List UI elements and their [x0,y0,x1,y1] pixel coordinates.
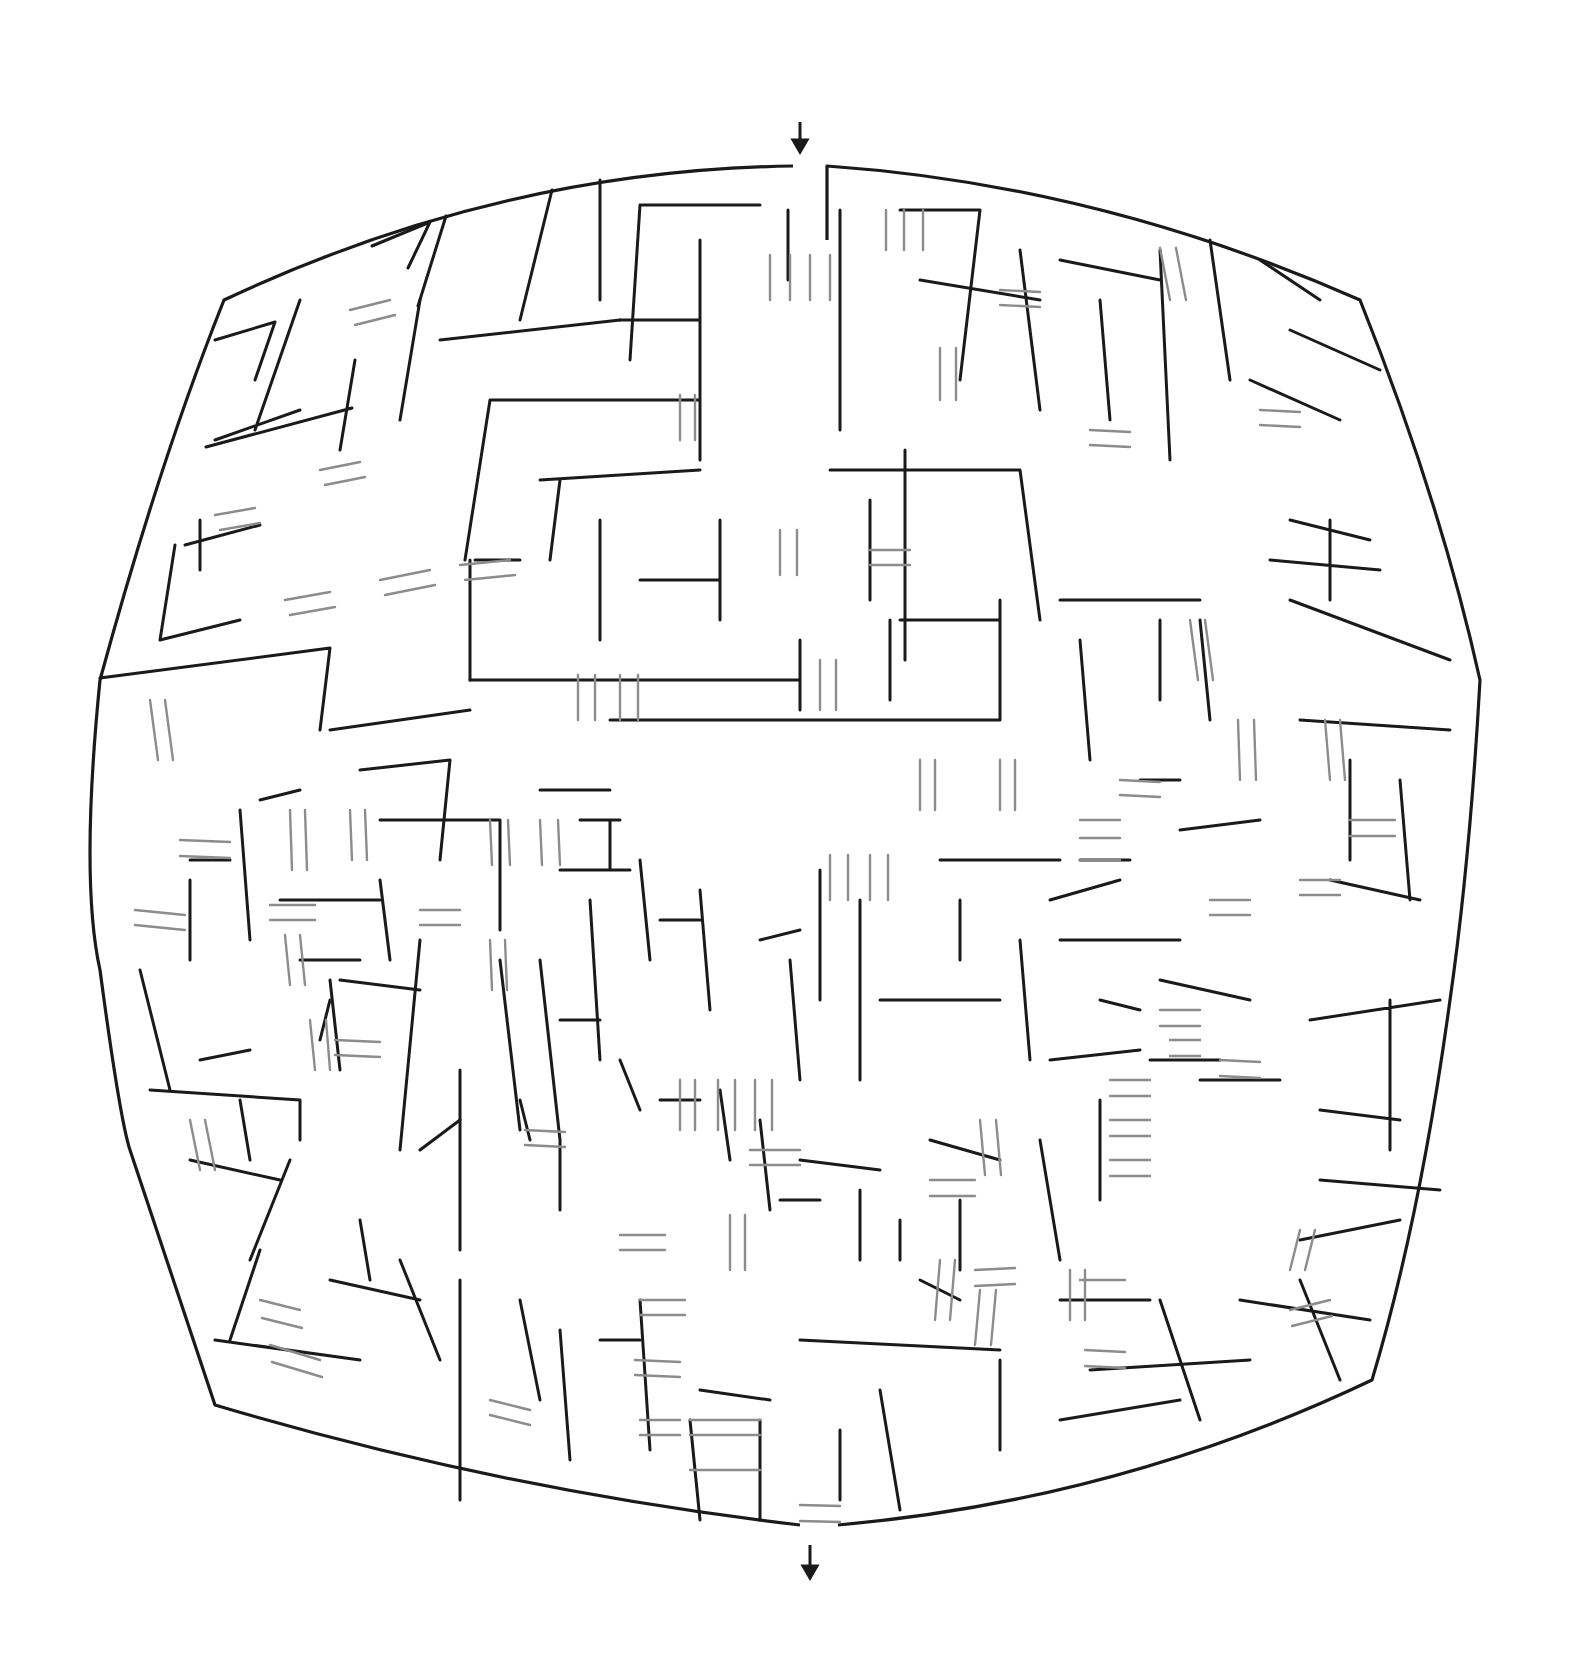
maze-bridge [950,1260,955,1320]
maze-wall [215,300,300,440]
maze-bridge [1120,795,1160,797]
maze-wall [140,970,300,1160]
maze-bridge [1220,1060,1260,1062]
maze-wall [460,960,560,1250]
maze-bridge [365,810,367,860]
maze-bridge [505,940,507,990]
maze-bridge [1085,1350,1125,1352]
maze-bridge [800,1505,840,1506]
maze-bridge [1090,445,1130,447]
maze-bridge [1340,720,1345,780]
maze-bridge [135,910,185,915]
maze-wall [590,860,710,1060]
maze-wall [600,180,788,360]
entrance-arrow-icon [793,122,807,152]
maze-outline [90,166,1480,1525]
maze-bridge [1085,1366,1125,1368]
maze-bridge [1260,425,1300,427]
maze-bridge [290,607,335,615]
maze-bridge [290,810,292,870]
maze-wall [460,1280,640,1500]
maze-wall [465,240,700,560]
maze-bridge [350,810,352,860]
maze-wall [190,1050,360,1360]
maze-bridge [1254,720,1256,780]
maze-bridge [260,1300,300,1310]
maze-wall [880,860,1060,1060]
maze-bridge [1220,1076,1260,1078]
maze-bridge [355,315,395,325]
maze-bridge [490,1400,530,1410]
maze-bridge [135,925,185,930]
maze-bridge [980,1120,985,1175]
maze-wall [372,190,552,320]
maze-bridge [508,820,510,865]
maze-puzzle [0,0,1575,1673]
maze-bridge [1290,1230,1300,1270]
maze-wall [1310,1000,1440,1190]
maze-wall [1020,250,1170,460]
maze-wall [1000,1300,1250,1450]
maze-wall [1210,240,1380,420]
maze-wall [360,760,500,930]
maze-wall [330,940,460,1150]
maze-bridge [385,585,435,595]
maze-bridge [180,856,230,858]
maze-bridge [635,1375,680,1377]
maze-bridge [1090,430,1130,432]
maze-bridge [285,592,330,600]
maze-wall [1040,1000,1140,1260]
maze-bridge [465,575,515,580]
maze-walls [100,180,1450,1520]
maze-bridge [180,840,230,842]
maze-wall [1270,520,1450,660]
maze-wall [470,520,800,710]
maze-wall [1050,780,1260,900]
maze-wall [830,450,1040,660]
maze-wall [800,1280,1000,1510]
maze-wall [760,870,860,1080]
maze-bridge [380,570,430,580]
exit-arrow-icon [803,1545,817,1578]
maze-bridge [335,1040,380,1042]
maze-wall [860,1140,1000,1270]
maze-wall [190,790,300,960]
maze-bridge [285,935,290,985]
maze-bridge [1238,720,1240,780]
maze-bridge [1325,720,1330,780]
maze-bridge [975,1284,1015,1286]
maze-bridge [1292,1316,1332,1326]
maze-bridge [558,820,560,865]
maze-wall [540,790,630,870]
maze-bridge [540,820,542,865]
maze-wall [100,560,470,730]
maze-bridge [1176,248,1186,300]
maze-wall [1160,1220,1400,1420]
maze-bridges [135,210,1395,1522]
maze-bridge [1260,410,1300,412]
maze-wall [640,1300,770,1520]
maze-bridge [996,1120,1001,1175]
maze-bridge [326,1020,330,1070]
maze-bridge [320,462,360,470]
maze-bridge [490,940,492,990]
maze-bridge [325,477,365,485]
maze-canvas [0,0,1575,1673]
maze-bridge [262,1318,302,1328]
maze-wall [230,1220,440,1360]
maze-bridge [1190,620,1198,680]
maze-bridge [215,508,255,515]
maze-bridge [150,700,158,760]
maze-bridge [975,1268,1015,1270]
maze-bridge [310,1020,315,1070]
maze-bridge [490,1415,530,1425]
maze-bridge [305,810,307,870]
maze-wall [160,520,260,640]
maze-bridge [635,1360,680,1362]
maze-bridge [165,700,173,760]
maze-bridge [800,1521,840,1522]
maze-bridge [490,820,492,865]
maze-wall [475,470,700,640]
maze-bridge [272,1362,322,1377]
maze-bridge [1000,305,1040,307]
